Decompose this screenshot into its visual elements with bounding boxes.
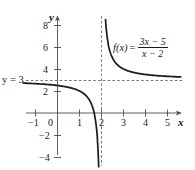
y-axis-label: y [49, 12, 54, 23]
fraction: 3x − 5 x − 2 [138, 36, 168, 59]
x-tick-label-4: 4 [143, 118, 148, 128]
x-tick-label-5: 5 [165, 118, 170, 128]
y-tick-label-4: 4 [43, 65, 48, 75]
y-tick-label-6: 6 [43, 43, 48, 53]
y-tick-label-2: 2 [43, 87, 48, 97]
x-axis-label: x [178, 117, 184, 128]
fraction-denominator: x − 2 [140, 48, 165, 59]
x-tick-label-0: 0 [48, 118, 53, 128]
horizontal-asymptote-label: y = 3 [2, 75, 24, 86]
fraction-numerator: 3x − 5 [138, 36, 168, 47]
equals-sign: = [130, 42, 136, 53]
function-annotation: f(x) = 3x − 5 x − 2 [113, 36, 168, 59]
plot-area [0, 0, 195, 170]
y-tick-label--2: −2 [39, 131, 50, 141]
x-tick-label--1: −1 [28, 118, 39, 128]
x-tick-label-3: 3 [121, 118, 126, 128]
x-tick-label-2: 2 [99, 118, 104, 128]
function-graph-figure: y x −1 0 1 2 3 4 5 8 6 4 2 −2 −4 y = 3 f… [0, 0, 195, 170]
y-tick-label-8: 8 [43, 21, 48, 31]
x-tick-label-1: 1 [77, 118, 82, 128]
function-name: f(x) [113, 42, 128, 53]
y-tick-label--4: −4 [39, 153, 50, 163]
